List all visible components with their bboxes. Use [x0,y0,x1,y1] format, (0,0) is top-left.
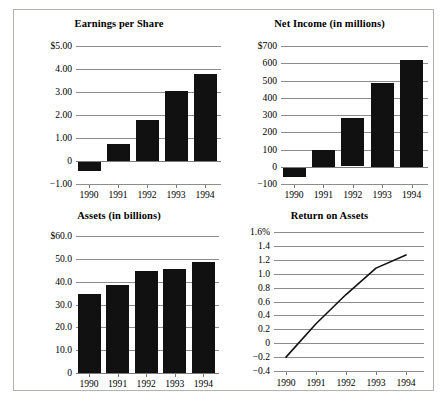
y-axis-tick-label: 0 [224,162,277,172]
x-axis-tickmark [175,374,176,377]
bar [371,83,394,167]
x-axis-tick-label: 1991 [307,190,339,200]
bar [400,60,423,167]
y-axis-tick-label: 30.0 [14,300,72,310]
x-axis-tickmark [203,374,204,377]
x-axis-tickmark [118,185,119,188]
x-axis-tick-label: 1990 [73,190,105,200]
x-axis-tickmark [89,374,90,377]
sheet-border-frame: Earnings per Share $5.004.003.002.001.00… [13,9,434,391]
y-axis-tick-label: $700 [224,41,277,51]
bar [136,120,159,161]
y-axis-tick-label: −100 [224,179,277,189]
x-axis-tickmark [147,185,148,188]
x-axis-tickmark [294,185,295,188]
panel-assets: Assets (in billions) $60.050.040.030.020… [14,202,224,392]
gridline [76,46,221,47]
x-axis-tick-label: 1994 [396,190,428,200]
x-axis-tick-label: 1992 [130,379,162,389]
x-axis-tick-label: 1990 [73,379,105,389]
x-axis-tickmark [323,185,324,188]
bar [194,74,217,161]
y-axis-tick-label: 0 [14,368,72,378]
y-axis-tick-label: 4.00 [14,64,72,74]
y-axis-tick-label: 40.0 [14,277,72,287]
y-axis-tick-label: 20.0 [14,322,72,332]
gridline [76,259,219,260]
x-axis-tick-label: 1993 [160,190,192,200]
y-axis-tick-label: 1.00 [14,133,72,143]
zero-baseline [76,373,219,374]
gridline [76,236,219,237]
y-axis-tick-label: 300 [224,110,277,120]
x-axis-tick-label: 1991 [102,190,134,200]
plot-area-assets: $60.050.040.030.020.010.0019901991199219… [14,202,224,392]
plot-area-net-income: $7006005004003002001000−1001990199119921… [224,10,435,202]
gridline [76,69,221,70]
x-axis-tick-label: 1992 [337,190,369,200]
y-axis-tick-label: −1.00 [14,179,72,189]
bar [341,118,364,166]
x-axis-tickmark [382,185,383,188]
y-axis-tick-label: $5.00 [14,41,72,51]
bar [106,285,129,373]
bar [192,262,215,373]
gridline [76,184,221,185]
x-axis-tickmark [353,185,354,188]
x-axis-tickmark [146,374,147,377]
bar [107,144,130,161]
bar [78,294,101,373]
bar [78,161,101,171]
y-axis-tick-label: 10.0 [14,345,72,355]
bar [312,150,335,167]
panel-net-income: Net Income (in millions) $70060050040030… [224,10,435,202]
y-axis-tick-label: 2.00 [14,110,72,120]
zero-baseline [76,161,221,162]
x-axis-tickmark [89,185,90,188]
zero-baseline [281,167,428,168]
line-series-return-on-assets [224,202,435,392]
y-axis-tick-label: 600 [224,58,277,68]
y-axis-tick-label: 400 [224,93,277,103]
y-axis-tick-label: 0 [14,156,72,166]
x-axis-tick-label: 1990 [278,190,310,200]
panel-return-on-assets: Return on Assets 1.6%1.41.21.00.80.60.40… [224,202,435,392]
x-axis-tick-label: 1993 [366,190,398,200]
x-axis-tick-label: 1993 [159,379,191,389]
plot-area-earnings-per-share: $5.004.003.002.001.000−1.001990199119921… [14,10,224,202]
bar [283,167,306,177]
panel-earnings-per-share: Earnings per Share $5.004.003.002.001.00… [14,10,224,202]
y-axis-tick-label: $60.0 [14,231,72,241]
y-axis-tick-label: 100 [224,145,277,155]
y-axis-tick-label: 200 [224,127,277,137]
chart-sheet-page: Earnings per Share $5.004.003.002.001.00… [0,0,445,416]
y-axis-tick-label: 50.0 [14,254,72,264]
x-axis-tick-label: 1991 [102,379,134,389]
bar [165,91,188,161]
plot-area-return-on-assets: 1.6%1.41.21.00.80.60.40.20−0.2−0.4199019… [224,202,435,392]
y-axis-tick-label: 500 [224,76,277,86]
line-path [286,255,406,357]
x-axis-tickmark [118,374,119,377]
x-axis-tick-label: 1992 [131,190,163,200]
x-axis-tick-label: 1994 [189,190,221,200]
gridline [281,46,428,47]
x-axis-tickmark [412,185,413,188]
bar [163,269,186,373]
x-axis-tickmark [205,185,206,188]
bar [135,271,158,373]
gridline [281,184,428,185]
y-axis-tick-label: 3.00 [14,87,72,97]
x-axis-tick-label: 1994 [187,379,219,389]
x-axis-tickmark [176,185,177,188]
